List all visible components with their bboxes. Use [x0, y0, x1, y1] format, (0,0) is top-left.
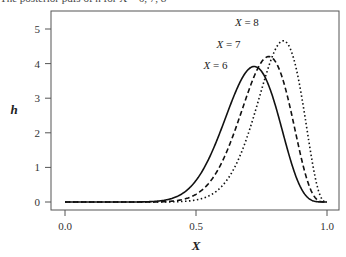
x-axis-title: X [191, 238, 201, 253]
y-tick-label: 2 [35, 127, 41, 139]
x-tick-label: 0.5 [189, 220, 203, 232]
series-annotation: X = 6 [202, 59, 227, 71]
y-tick-label: 5 [35, 23, 41, 35]
density-chart: 012345 0.00.51.0 X = 6X = 7X = 8 X h [0, 0, 346, 257]
y-axis-title: h [10, 102, 17, 117]
series-annotation: X = 7 [216, 38, 241, 50]
x-axis: 0.00.51.0 [58, 210, 334, 232]
curve-x6 [65, 67, 327, 202]
y-tick-label: 0 [35, 196, 41, 208]
x-tick-label: 1.0 [320, 220, 334, 232]
x-tick-label: 0.0 [58, 220, 72, 232]
y-axis: 012345 [35, 23, 52, 208]
annotations: X = 6X = 7X = 8 [202, 16, 259, 71]
curves [65, 41, 327, 202]
y-tick-label: 4 [35, 58, 41, 70]
plot-frame [51, 11, 339, 210]
y-tick-label: 1 [35, 161, 41, 173]
curve-x8 [65, 41, 327, 202]
series-annotation: X = 8 [234, 16, 259, 28]
y-tick-label: 3 [35, 92, 41, 104]
